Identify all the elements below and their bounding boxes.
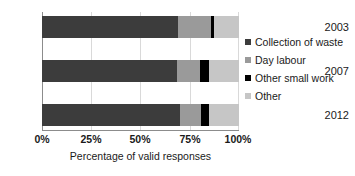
legend-label-other: Other [255, 91, 281, 102]
segment-collection-of-waste-2003 [42, 16, 178, 38]
legend-swatch-icon-collection-of-waste [245, 39, 251, 45]
legend-item-day-labour: Day labour [245, 51, 343, 69]
segment-day-labour-2012 [180, 104, 201, 126]
legend-swatch-icon-other-small-work [245, 75, 251, 81]
legend-item-other-small-work: Other small work [245, 69, 343, 87]
legend-label-collection-of-waste: Collection of waste [255, 37, 343, 48]
segment-collection-of-waste-2012 [42, 104, 180, 126]
segment-other-small-work-2007 [200, 60, 209, 82]
legend-label-other-small-work: Other small work [255, 73, 334, 84]
category-label-2003: 2003 [309, 22, 349, 33]
x-tick-label-100: 100% [218, 134, 258, 145]
legend-item-other: Other [245, 87, 343, 105]
segment-other-2007 [209, 60, 239, 82]
x-tick-label-0: 0% [22, 134, 62, 145]
x-tick-label-75: 75% [170, 134, 210, 145]
legend-label-day-labour: Day labour [255, 55, 306, 66]
chart-legend: Collection of waste Day labour Other sma… [245, 33, 343, 105]
x-axis-line [42, 130, 239, 131]
category-label-2012: 2012 [309, 110, 349, 121]
legend-swatch-icon-day-labour [245, 57, 251, 63]
segment-day-labour-2003 [178, 16, 211, 38]
x-tick-label-25: 25% [71, 134, 111, 145]
segment-other-2003 [214, 16, 239, 38]
legend-item-collection-of-waste: Collection of waste [245, 33, 343, 51]
plot-area [42, 12, 239, 131]
x-tick-label-50: 50% [120, 134, 160, 145]
segment-other-small-work-2012 [201, 104, 209, 126]
x-axis-title: Percentage of valid responses [42, 150, 239, 162]
segment-other-2012 [209, 104, 239, 126]
segment-day-labour-2007 [177, 60, 200, 82]
segment-collection-of-waste-2007 [42, 60, 177, 82]
legend-swatch-icon-other [245, 93, 251, 99]
stacked-bar-chart: 2003 2007 2012 0% [0, 0, 355, 176]
